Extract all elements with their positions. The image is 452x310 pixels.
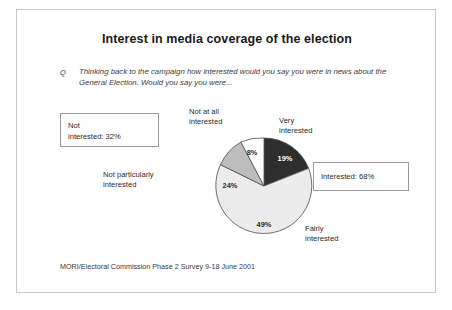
source-note: MORI/Electoral Commission Phase 2 Survey… [60,262,255,271]
pie-value-not-particularly-interested: 24% [223,181,238,190]
page-title: Interest in media coverage of the electi… [17,32,437,46]
callout-interested-text: Interested: 68% [321,171,374,182]
callout-not-interested-text: Not interested: 32% [68,121,121,141]
callout-not-interested: Not interested: 32% [60,113,159,147]
pie-label-not-at-all-interested: Not at all interested [189,107,249,127]
pie-value-not-at-all-interested: 8% [247,148,258,157]
question-marker: Q [60,68,66,77]
pie-value-fairly-interested: 49% [257,220,272,229]
callout-interested: Interested: 68% [313,162,409,191]
pie-value-very-interested: 19% [278,154,293,163]
question-text: Thinking back to the campaign how intere… [79,67,409,89]
pie-label-very-interested: Very interested [279,116,341,136]
slide-canvas: Interest in media coverage of the electi… [16,9,436,293]
pie-label-not-particularly-interested: Not particularly interested [103,170,191,190]
pie-label-fairly-interested: Fairly interested [305,224,367,244]
